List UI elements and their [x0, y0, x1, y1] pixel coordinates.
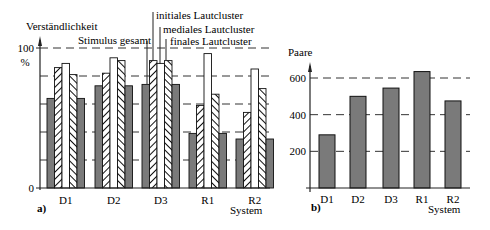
y-tick-label: 400: [290, 109, 307, 121]
bar: [110, 58, 118, 188]
x-tick-label: D2: [351, 193, 364, 205]
panel-a-yunit: %: [20, 56, 29, 68]
x-tick-label: D1: [59, 194, 72, 206]
bar: [445, 101, 461, 188]
bar: [70, 75, 78, 188]
bar: [204, 54, 212, 188]
panel-b: Paare 200400600 D1D2D3R1R2 b) System: [288, 46, 470, 215]
x-tick-label: R1: [201, 194, 214, 206]
x-tick-label: D3: [154, 194, 168, 206]
y-tick-label: 600: [290, 72, 307, 84]
bar: [77, 98, 85, 188]
panel-a-ytick-100: 100: [18, 42, 35, 54]
panel-a-label: a): [37, 202, 47, 215]
bar: [383, 88, 399, 188]
bar: [125, 86, 133, 188]
bar: [55, 68, 63, 188]
bar: [95, 86, 103, 188]
y-tick-label: 200: [290, 145, 307, 157]
bar: [189, 133, 197, 188]
bar: [142, 84, 150, 188]
bar: [244, 112, 252, 188]
panel-b-y-arrow-icon: [308, 62, 312, 72]
bar: [165, 61, 173, 188]
bar: [414, 72, 430, 188]
bar: [157, 63, 165, 188]
bar: [118, 61, 126, 188]
figure: 100 % 0 Verständlichkeit D1D2D3R1R2 a) S…: [0, 0, 490, 230]
legend-final: finales Lautcluster: [170, 35, 252, 47]
bar: [197, 105, 205, 188]
bar: [172, 84, 180, 188]
legend-medial: mediales Lautcluster: [163, 23, 255, 35]
bar: [103, 73, 111, 188]
panel-b-ylabel: Paare: [288, 46, 313, 58]
bar: [219, 133, 227, 188]
x-tick-label: D3: [384, 193, 398, 205]
bar: [251, 69, 259, 188]
bar: [350, 96, 366, 188]
panel-b-label: b): [311, 201, 321, 214]
bar: [236, 139, 244, 188]
legend-gesamt: Stimulus gesamt: [78, 34, 151, 46]
panel-a-bars: [47, 54, 274, 188]
bar: [319, 135, 335, 188]
bar: [150, 61, 158, 188]
x-tick-label: D1: [320, 193, 333, 205]
panel-a-y-arrow-icon: [38, 36, 42, 46]
legend-initial: initiales Lautcluster: [156, 9, 243, 21]
panel-a-ytick-0: 0: [29, 182, 35, 194]
panel-b-y-tick-labels: 200400600: [290, 72, 307, 157]
panel-a-xlabel: System: [230, 204, 263, 216]
bar: [47, 98, 55, 188]
bar: [266, 139, 274, 188]
bar: [62, 63, 70, 188]
bar: [259, 89, 267, 188]
x-tick-label: R1: [416, 193, 429, 205]
panel-a: 100 % 0 Verständlichkeit D1D2D3R1R2 a) S…: [18, 9, 274, 216]
bar: [212, 94, 220, 188]
panel-b-bars: [319, 72, 461, 188]
panel-a-ylabel: Verständlichkeit: [26, 20, 97, 32]
x-tick-label: D2: [107, 194, 120, 206]
panel-b-xlabel: System: [428, 203, 461, 215]
